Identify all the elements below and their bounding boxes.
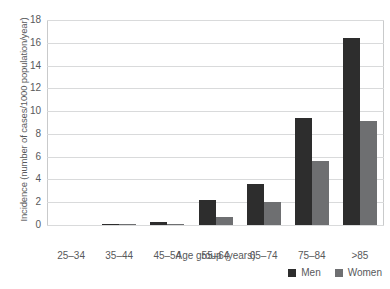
bar-men (295, 118, 312, 225)
bar-men (199, 200, 216, 225)
legend-item: Men (288, 268, 320, 278)
gridline (47, 157, 384, 158)
gridline (47, 134, 384, 135)
gridline (47, 202, 384, 203)
gridline (47, 20, 384, 21)
gridline (47, 88, 384, 89)
bar-chart: Incidence (number of cases/1000 populati… (0, 0, 390, 289)
gridline (47, 225, 384, 226)
legend-label: Women (348, 268, 382, 278)
legend-item: Women (335, 268, 382, 278)
y-axis-tick-label: 2 (1, 197, 41, 207)
plot-border-right (383, 20, 384, 226)
y-axis-tick-label: 0 (1, 220, 41, 230)
gridline (47, 66, 384, 67)
y-axis-tick-label: 6 (1, 152, 41, 162)
y-axis-tick-label: 16 (1, 38, 41, 48)
bar-women (167, 224, 184, 225)
bar-men (150, 222, 167, 225)
bar-women (360, 121, 377, 225)
y-axis-tick-label: 18 (1, 15, 41, 25)
bar-women (264, 202, 281, 225)
bar-men (343, 38, 360, 225)
y-axis-tick-label: 4 (1, 174, 41, 184)
y-axis-tick-label: 10 (1, 106, 41, 116)
plot-area: 02468101214161825–3435–4445–5455–6465–74… (47, 20, 384, 226)
x-axis-title: Age group (years) (47, 250, 384, 261)
bar-men (102, 224, 119, 225)
bar-men (247, 184, 264, 225)
y-axis-tick-label: 12 (1, 83, 41, 93)
bar-women (312, 161, 329, 225)
y-axis-tick-label: 14 (1, 61, 41, 71)
bar-women (119, 224, 136, 225)
bar-women (216, 217, 233, 225)
legend-swatch-icon (335, 269, 343, 277)
gridline (47, 179, 384, 180)
gridline (47, 111, 384, 112)
chart-legend: MenWomen (288, 268, 382, 278)
legend-swatch-icon (288, 269, 296, 277)
y-axis-tick-label: 8 (1, 129, 41, 139)
gridline (47, 43, 384, 44)
axis-line-left (47, 20, 48, 226)
legend-label: Men (301, 268, 320, 278)
